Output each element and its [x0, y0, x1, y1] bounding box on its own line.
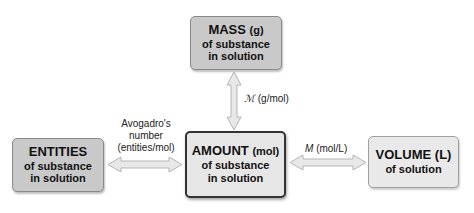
- entities-line1: of substance: [24, 160, 92, 173]
- volume-box: VOLUME (L) of solution: [368, 136, 459, 188]
- amount-line2: in solution: [208, 172, 264, 185]
- entities-line2: in solution: [30, 172, 86, 185]
- molarity-label: M (mol/L): [305, 143, 347, 155]
- mass-line2: in solution: [208, 50, 264, 63]
- entities-box: ENTITIES of substance in solution: [12, 138, 104, 192]
- amount-line1: of substance: [202, 159, 270, 172]
- volume-title: VOLUME (L): [376, 148, 452, 163]
- mass-line1: of substance: [202, 38, 270, 51]
- volume-line1: of solution: [385, 163, 441, 176]
- mass-box: MASS (g) of substance in solution: [190, 16, 282, 70]
- amount-title: AMOUNT (mol): [192, 144, 280, 159]
- avogadro-label: Avogadro's number (entities/mol): [110, 118, 182, 154]
- molar-mass-label: ℳ (g/mol): [244, 93, 289, 105]
- amount-box: AMOUNT (mol) of substance in solution: [185, 131, 286, 198]
- left-double-arrow-icon: [107, 156, 183, 173]
- entities-title: ENTITIES: [29, 145, 88, 160]
- mass-title: MASS (g): [208, 23, 263, 38]
- right-double-arrow-icon: [289, 154, 367, 171]
- vertical-double-arrow-icon: [226, 71, 242, 131]
